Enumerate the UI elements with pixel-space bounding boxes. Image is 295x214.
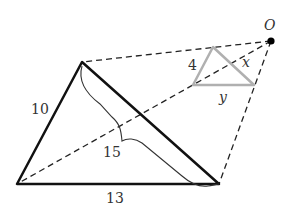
label-small-diagonal: x bbox=[242, 54, 250, 70]
similar-triangles-diagram: O 10 13 15 4 y x bbox=[0, 0, 295, 214]
label-o: O bbox=[264, 17, 276, 33]
label-large-left: 10 bbox=[31, 101, 49, 117]
large-triangle bbox=[17, 62, 219, 184]
label-small-left: 4 bbox=[188, 57, 197, 73]
label-small-bottom: y bbox=[218, 89, 228, 105]
center-point-o bbox=[267, 37, 274, 44]
label-large-diagonal: 15 bbox=[103, 144, 121, 160]
label-large-bottom: 13 bbox=[106, 190, 124, 206]
